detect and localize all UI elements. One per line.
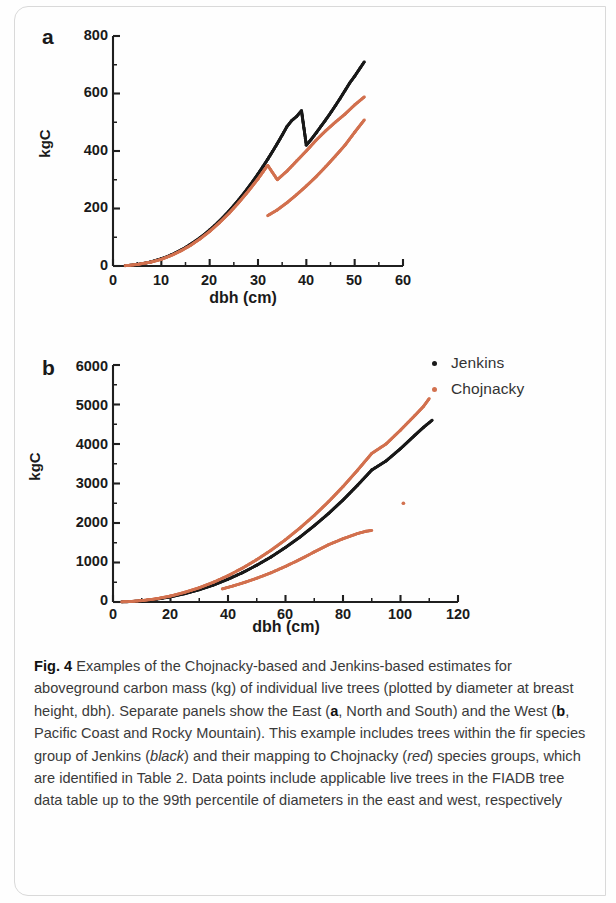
series-chojnacky-upper — [124, 96, 366, 268]
figure-legend: Jenkins Chojnacky — [432, 352, 602, 404]
series-chojnacky-outlier — [402, 501, 406, 505]
caption-fragment-0: Fig. 4 — [34, 658, 72, 674]
legend-marker-chojnacky-icon — [432, 387, 437, 392]
legend-label-chojnacky: Chojnacky — [451, 380, 524, 398]
caption-fragment-3: , North and South) and the West ( — [338, 703, 556, 719]
figure-page: a kgC dbh (cm) 800 600 400 200 0 0 10 20… — [0, 0, 616, 903]
series-jenkins — [120, 419, 433, 604]
caption-fragment-8: red — [407, 748, 428, 764]
panel-a-plot-area — [0, 0, 616, 320]
panel-a: a kgC dbh (cm) 800 600 400 200 0 0 10 20… — [0, 0, 616, 320]
caption-fragment-6: black — [150, 748, 184, 764]
figure-graphics: a kgC dbh (cm) 800 600 400 200 0 0 10 20… — [0, 0, 616, 648]
legend-item-chojnacky: Chojnacky — [432, 378, 602, 400]
caption-fragment-4: b — [556, 703, 565, 719]
legend-label-jenkins: Jenkins — [451, 354, 504, 372]
caption-fragment-7: ) and their mapping to Chojnacky ( — [184, 748, 407, 764]
figure-caption: Fig. 4 Examples of the Chojnacky-based a… — [34, 655, 590, 812]
legend-marker-jenkins-icon — [432, 361, 437, 366]
legend-item-jenkins: Jenkins — [432, 352, 602, 374]
